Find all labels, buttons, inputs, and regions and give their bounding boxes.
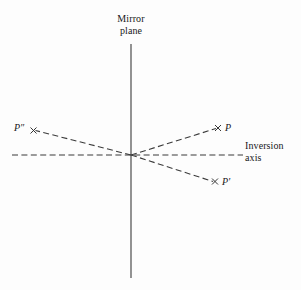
point-p-label: P xyxy=(225,123,231,133)
mirror-plane-label: Mirror plane xyxy=(0,13,262,36)
ray-to-p-prime-line xyxy=(131,155,213,182)
ray-to-p-double-prime-line xyxy=(36,131,132,156)
point-p-prime-label: P' xyxy=(222,177,230,187)
point-p-double-prime-label: P″ xyxy=(14,123,24,133)
ray-to-p-line xyxy=(131,129,216,156)
point-p-marker-icon xyxy=(215,125,221,131)
inversion-axis-label: Inversion axis xyxy=(245,140,301,163)
mirror-plane-inversion-axis-figure: Mirror plane Inversion axis P P' P″ xyxy=(0,0,301,290)
